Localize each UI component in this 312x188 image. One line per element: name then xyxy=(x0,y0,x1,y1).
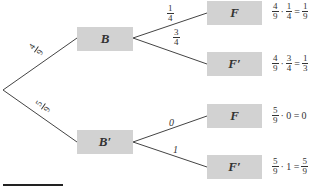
node-F-given-B: F xyxy=(207,1,262,25)
node-Fc-given-B: F′ xyxy=(207,52,262,76)
result-B-Fc: 49 · 34 = 13 xyxy=(272,54,308,73)
node-label: F′ xyxy=(228,56,240,72)
result-Bc-F: 59 · 0 = 0 xyxy=(272,106,306,125)
node-Fc-given-Bc: F′ xyxy=(207,155,262,179)
prob-Fc-given-B: 34 xyxy=(173,28,180,47)
result-B-F: 49 · 14 = 19 xyxy=(272,2,308,21)
node-B: B xyxy=(77,27,133,51)
edge-B-Fc xyxy=(133,38,207,64)
prob-F-given-B: 14 xyxy=(167,4,174,23)
tree-edges xyxy=(0,0,312,188)
edge-Bc-Fc xyxy=(133,142,207,167)
node-label: B xyxy=(101,31,110,47)
node-label: F xyxy=(230,108,239,124)
result-Bc-Fc: 59 · 1 = 59 xyxy=(272,157,308,176)
node-F-given-Bc: F xyxy=(207,104,262,128)
node-label: F′ xyxy=(228,159,240,175)
edge-root-Bc xyxy=(3,90,77,142)
node-B-complement: B′ xyxy=(77,130,133,154)
bottom-rule xyxy=(3,184,63,186)
node-label: B′ xyxy=(99,134,111,150)
edge-root-B xyxy=(3,38,77,90)
prob-Fc-given-Bc: 1 xyxy=(173,145,178,154)
node-label: F xyxy=(230,5,239,21)
prob-F-given-Bc: 0 xyxy=(169,118,174,127)
